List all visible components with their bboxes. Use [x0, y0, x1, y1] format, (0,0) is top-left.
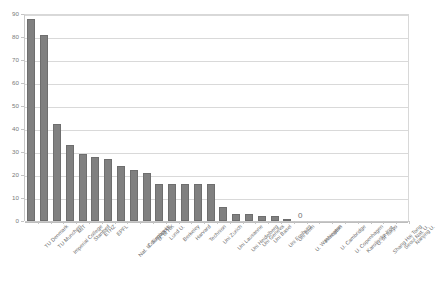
bar[interactable] [104, 159, 112, 221]
bar[interactable] [245, 214, 253, 221]
bar[interactable] [27, 19, 35, 221]
bar-slot[interactable] [335, 14, 343, 221]
bar-slot[interactable] [232, 14, 240, 221]
bar-slot[interactable] [309, 14, 317, 221]
bar[interactable] [91, 157, 99, 221]
bar-slot[interactable] [53, 14, 61, 221]
bar[interactable] [168, 184, 176, 221]
bar-slot[interactable] [283, 14, 291, 221]
x-tick-label: Uni Bern [298, 224, 317, 243]
bar[interactable] [53, 124, 61, 221]
y-tick-label: 30 [12, 149, 19, 155]
y-tick-label: 50 [12, 103, 19, 109]
bar-slot[interactable] [155, 14, 163, 221]
y-tick-label: 90 [12, 11, 19, 17]
bar[interactable] [40, 35, 48, 221]
bar[interactable] [79, 154, 87, 221]
bar[interactable] [207, 184, 215, 221]
bar-slot[interactable] [91, 14, 99, 221]
bar[interactable] [117, 166, 125, 221]
bar[interactable] [219, 207, 227, 221]
bar-slot[interactable] [347, 14, 355, 221]
bar[interactable] [232, 214, 240, 221]
y-tick-label: 10 [12, 195, 19, 201]
bar[interactable] [66, 145, 74, 221]
y-tick-label: 0 [16, 218, 19, 224]
x-tick-label: EPFL [116, 224, 129, 237]
bars-layer: 0 [25, 14, 409, 221]
bar-slot[interactable] [207, 14, 215, 221]
bar-slot[interactable] [130, 14, 138, 221]
x-tick-label: Princeton [324, 224, 344, 244]
bar[interactable] [194, 184, 202, 221]
bar[interactable] [143, 173, 151, 221]
bar-slot[interactable] [181, 14, 189, 221]
bar-slot[interactable] [117, 14, 125, 221]
bar-slot[interactable] [27, 14, 35, 221]
y-axis: 0102030405060708090 [0, 14, 24, 221]
bar-slot[interactable] [40, 14, 48, 221]
bar[interactable] [130, 170, 138, 221]
bar-slot[interactable] [373, 14, 381, 221]
y-tick-label: 70 [12, 57, 19, 63]
bar[interactable] [181, 184, 189, 221]
bar-slot[interactable]: 0 [296, 14, 304, 221]
y-tick-label: 20 [12, 172, 19, 178]
bar-slot[interactable] [271, 14, 279, 221]
x-axis-labels: TU DenmarkTU MunchenImperial CollegeMITS… [25, 224, 409, 290]
bar-slot[interactable] [360, 14, 368, 221]
bar-slot[interactable] [194, 14, 202, 221]
bar-slot[interactable] [399, 14, 407, 221]
y-tick-label: 80 [12, 34, 19, 40]
bar-slot[interactable] [66, 14, 74, 221]
y-tick-label: 60 [12, 80, 19, 86]
y-tick-mark [21, 221, 24, 222]
bar-slot[interactable] [258, 14, 266, 221]
bar-slot[interactable] [104, 14, 112, 221]
bar[interactable] [155, 184, 163, 221]
y-tick-label: 40 [12, 126, 19, 132]
bar-slot[interactable] [386, 14, 394, 221]
bar-slot[interactable] [322, 14, 330, 221]
bar-value-label: 0 [298, 212, 302, 220]
x-tick-mark [409, 221, 410, 224]
bar-slot[interactable] [245, 14, 253, 221]
bar-slot[interactable] [79, 14, 87, 221]
bar-slot[interactable] [219, 14, 227, 221]
bar-slot[interactable] [143, 14, 151, 221]
bar-slot[interactable] [168, 14, 176, 221]
